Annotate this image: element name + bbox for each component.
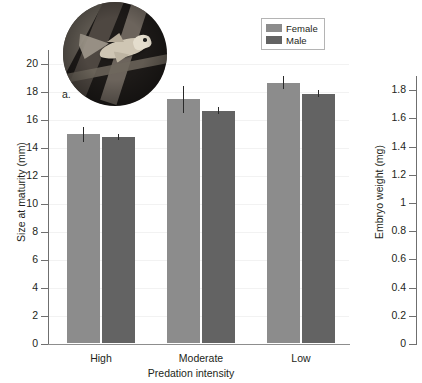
error-bar bbox=[318, 90, 319, 97]
panel-label-a: a. bbox=[62, 88, 71, 100]
y-tick-a: 4 bbox=[41, 288, 48, 289]
y-tick-b: 0.6 bbox=[409, 259, 416, 260]
y-tick-label-b: 1.4 bbox=[391, 140, 406, 153]
y-axis-line-a bbox=[48, 50, 49, 345]
y-tick-a: 8 bbox=[41, 232, 48, 233]
bar-low-male bbox=[302, 94, 335, 343]
chart-panel-a: Size at maturity (mm) Predation intensit… bbox=[0, 0, 360, 383]
y-tick-b: 1.4 bbox=[409, 147, 416, 148]
y-tick-label-a: 14 bbox=[26, 141, 38, 154]
legend: Female Male bbox=[261, 18, 325, 50]
y-tick-label-a: 6 bbox=[32, 253, 38, 266]
y-tick-label-b: 0 bbox=[400, 337, 406, 350]
y-tick-a: 16 bbox=[41, 120, 48, 121]
y-tick-label-a: 16 bbox=[26, 113, 38, 126]
bar-high-female bbox=[67, 134, 100, 343]
chart-panel-b: Embryo weight (mg) 00.20.40.60.811.21.41… bbox=[360, 0, 422, 383]
y-tick-b: 1.6 bbox=[409, 118, 416, 119]
y-tick-a: 0 bbox=[41, 344, 48, 345]
x-axis-title-a: Predation intensity bbox=[46, 367, 336, 379]
x-tick-label-high: High bbox=[67, 352, 135, 364]
error-bar bbox=[218, 107, 219, 114]
legend-label-female: Female bbox=[286, 23, 318, 34]
y-tick-label-b: 0.4 bbox=[391, 281, 406, 294]
y-tick-label-a: 20 bbox=[26, 57, 38, 70]
y-tick-label-b: 1.6 bbox=[391, 111, 406, 124]
y-tick-label-b: 0.6 bbox=[391, 252, 406, 265]
plot-area-b: 00.20.40.60.811.21.41.61.8 bbox=[416, 76, 422, 344]
legend-item-female: Female bbox=[266, 22, 318, 34]
y-tick-b: 0.4 bbox=[409, 288, 416, 289]
x-tick-label-moderate: Moderate bbox=[167, 352, 235, 364]
y-tick-b: 1 bbox=[409, 203, 416, 204]
y-tick-b: 0 bbox=[409, 344, 416, 345]
y-tick-label-b: 0.8 bbox=[391, 224, 406, 237]
y-tick-a: 10 bbox=[41, 204, 48, 205]
legend-swatch-male bbox=[266, 36, 282, 44]
y-tick-b: 0.8 bbox=[409, 231, 416, 232]
bar-high-male bbox=[102, 137, 135, 343]
y-tick-label-b: 0.2 bbox=[391, 309, 406, 322]
y-tick-label-a: 2 bbox=[32, 309, 38, 322]
legend-swatch-female bbox=[266, 24, 282, 32]
y-tick-label-b: 1.2 bbox=[391, 168, 406, 181]
bar-moderate-female bbox=[167, 99, 200, 343]
bar-moderate-male bbox=[202, 111, 235, 343]
y-tick-label-b: 1 bbox=[400, 196, 406, 209]
y-tick-a: 18 bbox=[41, 92, 48, 93]
y-tick-label-a: 18 bbox=[26, 85, 38, 98]
y-tick-a: 6 bbox=[41, 260, 48, 261]
y-tick-label-a: 0 bbox=[32, 337, 38, 350]
error-bar bbox=[183, 86, 184, 113]
x-axis-line-a bbox=[48, 344, 350, 345]
y-tick-label-a: 4 bbox=[32, 281, 38, 294]
guppy-fish-photo bbox=[63, 2, 167, 106]
y-tick-a: 2 bbox=[41, 316, 48, 317]
error-bar bbox=[118, 134, 119, 140]
bar-low-female bbox=[267, 83, 300, 343]
error-bar bbox=[283, 76, 284, 89]
x-tick-label-low: Low bbox=[267, 352, 335, 364]
y-axis-title-a: Size at maturity (mm) bbox=[15, 112, 27, 272]
y-axis-line-b bbox=[416, 76, 417, 345]
y-tick-a: 12 bbox=[41, 176, 48, 177]
legend-item-male: Male bbox=[266, 34, 318, 46]
y-tick-label-a: 8 bbox=[32, 225, 38, 238]
y-tick-b: 1.2 bbox=[409, 175, 416, 176]
legend-label-male: Male bbox=[286, 35, 307, 46]
y-tick-a: 14 bbox=[41, 148, 48, 149]
y-tick-label-a: 10 bbox=[26, 197, 38, 210]
y-axis-title-b: Embryo weight (mg) bbox=[373, 112, 385, 272]
y-tick-label-b: 1.8 bbox=[391, 83, 406, 96]
y-tick-label-a: 12 bbox=[26, 169, 38, 182]
error-bar bbox=[83, 127, 84, 142]
y-tick-a: 20 bbox=[41, 64, 48, 65]
photo-vignette bbox=[63, 2, 167, 106]
y-tick-b: 1.8 bbox=[409, 90, 416, 91]
y-tick-b: 0.2 bbox=[409, 316, 416, 317]
